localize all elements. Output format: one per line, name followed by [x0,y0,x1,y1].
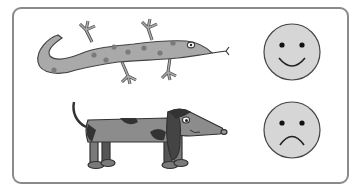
sad-face-icon [264,102,320,158]
happy-face-icon [264,24,320,80]
lizard-illustration [38,19,229,84]
illustration-canvas [0,0,355,186]
dog-illustration [74,102,228,169]
